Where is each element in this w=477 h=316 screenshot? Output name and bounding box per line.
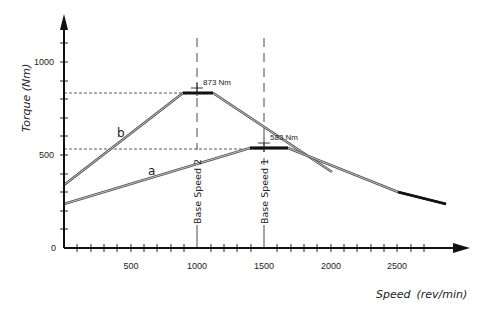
x-tick-label-500: 500 — [123, 261, 138, 271]
base-speed-2-label: Base Speed 2 — [192, 159, 203, 224]
y-tick-label-0: 0 — [51, 243, 56, 253]
x-axis-title: Speed(rev/min) — [376, 288, 467, 301]
y-tick-label-500: 500 — [39, 150, 54, 160]
curve-label-a: a — [148, 164, 155, 178]
y-axis-arrow-icon — [60, 14, 68, 30]
x-tick-label-1000: 1000 — [187, 261, 207, 271]
y-tick-label-1000: 1000 — [34, 57, 54, 67]
x-axis-arrow-icon — [453, 243, 470, 253]
peak-label-a: 583 Nm — [270, 133, 298, 142]
curve-label-b: b — [117, 126, 125, 140]
x-axis-title-unit: (rev/min) — [416, 288, 467, 301]
peak-label-b: 873 Nm — [203, 78, 231, 87]
x-tick-label-2500: 2500 — [387, 261, 407, 271]
x-axis-title-speed: Speed — [376, 288, 412, 301]
curve-a — [64, 148, 446, 204]
x-tick-label-2000: 2000 — [321, 261, 341, 271]
torque-speed-chart: 1000 500 0 500 1000 1500 2000 2500 Torqu… — [0, 0, 477, 316]
peak-marker-a — [258, 137, 270, 152]
base-speed-1-label: Base Speed 1 — [259, 159, 270, 224]
y-axis-title: Torque (Nm) — [20, 64, 33, 132]
x-tick-label-1500: 1500 — [254, 261, 274, 271]
